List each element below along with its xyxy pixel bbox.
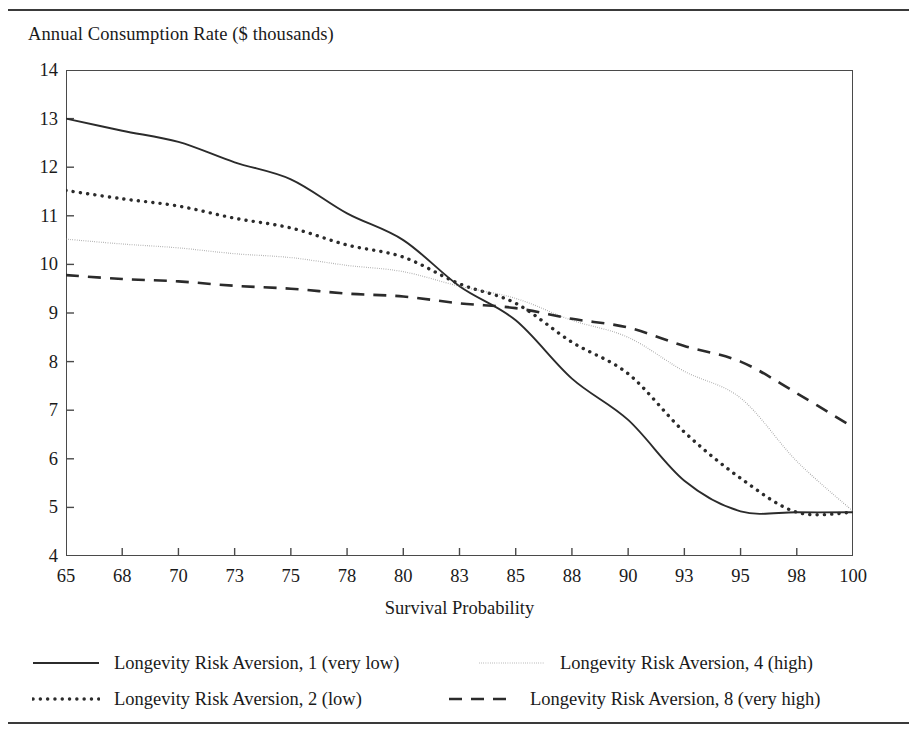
x-axis-tick-label: 80 bbox=[394, 566, 413, 587]
legend-line-swatch-icon bbox=[478, 656, 546, 670]
chart-figure: 4567891011121314 65687073757880838588909… bbox=[0, 0, 917, 735]
legend-item-label: Longevity Risk Aversion, 1 (very low) bbox=[114, 654, 399, 673]
legend-item-label: Longevity Risk Aversion, 2 (low) bbox=[114, 690, 362, 709]
legend-line-swatch-icon bbox=[32, 656, 100, 670]
legend-line-swatch-icon bbox=[32, 692, 100, 706]
y-axis-tick-label: 11 bbox=[16, 205, 58, 226]
x-axis-label: Survival Probability bbox=[66, 598, 853, 619]
y-axis-tick-label: 14 bbox=[16, 60, 58, 81]
x-axis-tick-label: 68 bbox=[113, 566, 132, 587]
y-axis-tick-label: 12 bbox=[16, 157, 58, 178]
series-line bbox=[66, 275, 853, 427]
x-axis-tick-label: 83 bbox=[450, 566, 469, 587]
x-axis-tick-label: 70 bbox=[169, 566, 188, 587]
series-group bbox=[66, 119, 853, 515]
x-axis-tick-label: 88 bbox=[563, 566, 582, 587]
legend-item[interactable]: Longevity Risk Aversion, 8 (very high) bbox=[448, 684, 820, 714]
y-axis-tick-label: 9 bbox=[16, 303, 58, 324]
x-axis-tick-label: 65 bbox=[57, 566, 76, 587]
y-axis-tick-label: 8 bbox=[16, 351, 58, 372]
axis-tick-marks bbox=[66, 119, 853, 556]
x-axis-tick-label: 100 bbox=[839, 566, 867, 587]
legend-line-swatch-icon bbox=[448, 692, 516, 706]
y-axis-tick-label: 10 bbox=[16, 254, 58, 275]
legend-item[interactable]: Longevity Risk Aversion, 1 (very low) bbox=[32, 648, 399, 678]
x-axis-tick-label: 98 bbox=[788, 566, 807, 587]
x-axis-tick-label: 85 bbox=[506, 566, 525, 587]
x-axis-tick-label: 78 bbox=[338, 566, 357, 587]
chart-legend: Longevity Risk Aversion, 1 (very low)Lon… bbox=[30, 648, 890, 714]
y-axis-tick-label: 13 bbox=[16, 108, 58, 129]
plot-series-canvas bbox=[66, 70, 853, 556]
x-axis-tick-label: 95 bbox=[731, 566, 750, 587]
bottom-rule bbox=[8, 722, 909, 724]
y-axis-tick-label: 6 bbox=[16, 448, 58, 469]
x-axis-tick-label: 90 bbox=[619, 566, 638, 587]
legend-item-label: Longevity Risk Aversion, 4 (high) bbox=[560, 654, 813, 673]
x-axis-tick-label: 73 bbox=[225, 566, 244, 587]
series-line bbox=[66, 239, 853, 511]
y-axis-tick-labels: 4567891011121314 bbox=[8, 70, 58, 556]
legend-item[interactable]: Longevity Risk Aversion, 4 (high) bbox=[478, 648, 813, 678]
x-axis-tick-labels: 6568707375788083858890939598100 bbox=[66, 566, 853, 596]
series-line bbox=[66, 191, 853, 515]
x-axis-tick-label: 75 bbox=[282, 566, 301, 587]
legend-item-label: Longevity Risk Aversion, 8 (very high) bbox=[530, 690, 820, 709]
legend-item[interactable]: Longevity Risk Aversion, 2 (low) bbox=[32, 684, 362, 714]
y-axis-tick-label: 7 bbox=[16, 400, 58, 421]
series-line bbox=[66, 119, 853, 514]
x-axis-tick-label: 93 bbox=[675, 566, 694, 587]
y-axis-tick-label: 4 bbox=[16, 546, 58, 567]
y-axis-tick-label: 5 bbox=[16, 497, 58, 518]
